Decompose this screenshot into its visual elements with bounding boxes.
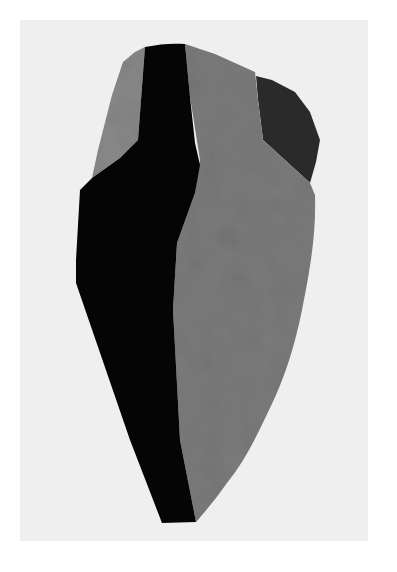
sculpture <box>0 0 397 572</box>
